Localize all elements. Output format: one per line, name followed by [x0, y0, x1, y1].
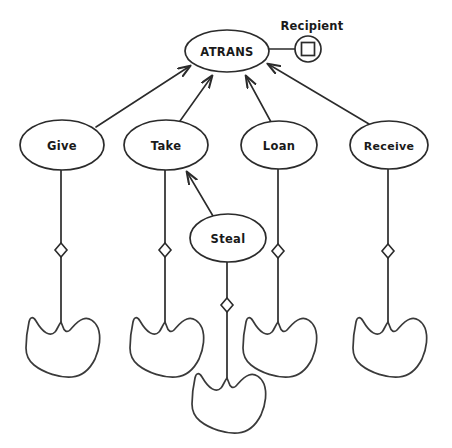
node-loan-label: Loan: [263, 139, 295, 153]
hand-icon-loan: [243, 318, 317, 377]
hand-icon-receive: [353, 318, 427, 377]
node-steal-label: Steal: [211, 232, 246, 246]
diagram-canvas: ATRANS Recipient Give Take Loan Receive: [0, 0, 452, 448]
branch-loan: [243, 169, 317, 377]
hand-icon-take: [130, 318, 204, 377]
node-receive[interactable]: Receive: [350, 121, 428, 169]
node-recipient-label: Recipient: [281, 19, 344, 33]
edge-take-to-atrans: [180, 76, 212, 121]
node-take[interactable]: Take: [124, 120, 208, 170]
diamond-marker-receive: [382, 244, 394, 258]
branch-take: [130, 170, 204, 377]
diamond-marker-give: [55, 243, 67, 257]
hand-icon-steal: [192, 374, 266, 433]
edge-give-to-atrans: [96, 66, 190, 127]
node-give-label: Give: [47, 139, 77, 153]
branch-receive: [353, 169, 427, 377]
node-receive-label: Receive: [364, 140, 414, 153]
recipient-square-icon: [302, 43, 315, 56]
edge-loan-to-atrans: [246, 76, 271, 122]
node-atrans-label: ATRANS: [200, 45, 253, 59]
hand-icon-give: [26, 318, 100, 377]
edge-receive-to-atrans: [268, 64, 369, 124]
node-give[interactable]: Give: [20, 120, 104, 170]
node-recipient[interactable]: Recipient: [281, 19, 344, 62]
branch-give: [26, 170, 100, 377]
diamond-marker-loan: [272, 244, 284, 258]
diamond-marker-steal: [221, 298, 233, 312]
node-loan[interactable]: Loan: [241, 121, 317, 169]
diamond-marker-take: [159, 243, 171, 257]
node-steal[interactable]: Steal: [190, 214, 266, 262]
node-atrans[interactable]: ATRANS: [185, 30, 269, 72]
node-take-label: Take: [151, 139, 181, 153]
edge-steal-to-take: [187, 172, 213, 216]
semantic-network-diagram: ATRANS Recipient Give Take Loan Receive: [0, 0, 452, 448]
